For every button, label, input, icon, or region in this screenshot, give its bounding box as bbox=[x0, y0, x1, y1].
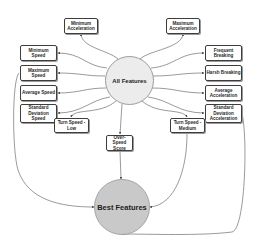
feature-std-accel: Standard Deviation Acceleration bbox=[205, 104, 242, 123]
edge-avg-speed bbox=[58, 88, 106, 93]
edge-over-speed-best bbox=[120, 151, 121, 179]
feature-freq-breaking: Frequent Breaking bbox=[205, 45, 242, 61]
edge-min-speed bbox=[58, 53, 107, 68]
feature-std-speed: Standard Deviation Speed bbox=[20, 104, 57, 123]
best-features-node: Best Features bbox=[94, 179, 150, 235]
feature-min-accel: Minimum Acceleration bbox=[64, 18, 98, 34]
feature-avg-accel: Average Acceleration bbox=[205, 85, 242, 101]
edge-freq-breaking bbox=[151, 53, 204, 68]
edge-avg-accel bbox=[152, 88, 204, 93]
feature-avg-speed: Average Speed bbox=[20, 85, 57, 101]
edge-std-accel bbox=[148, 97, 204, 113]
edge-harsh-breaking bbox=[153, 73, 204, 76]
edge-turn-low bbox=[71, 101, 116, 117]
feature-turn-medium: Turn Speed - Medium bbox=[170, 118, 205, 133]
feature-min-speed: Minimum Speed bbox=[20, 45, 57, 61]
edge-max-accel bbox=[140, 34, 183, 59]
feature-harsh-breaking: Harsh Breaking bbox=[205, 65, 242, 81]
edge-turn-medium-best bbox=[150, 134, 187, 207]
feature-max-speed: Maximum Speed bbox=[20, 65, 57, 81]
edge-turn-medium bbox=[142, 101, 187, 117]
feature-over-speed: Over-Speed Score bbox=[106, 135, 133, 151]
all-features-node: All Features bbox=[105, 56, 154, 105]
edge-max-speed bbox=[58, 73, 105, 76]
edge-over-speed bbox=[120, 104, 122, 134]
edge-std-speed bbox=[58, 97, 110, 113]
feature-turn-low: Turn Speed - Low bbox=[54, 118, 89, 133]
feature-max-accel: Maximum Acceleration bbox=[166, 18, 200, 34]
edge-min-accel bbox=[81, 34, 118, 59]
